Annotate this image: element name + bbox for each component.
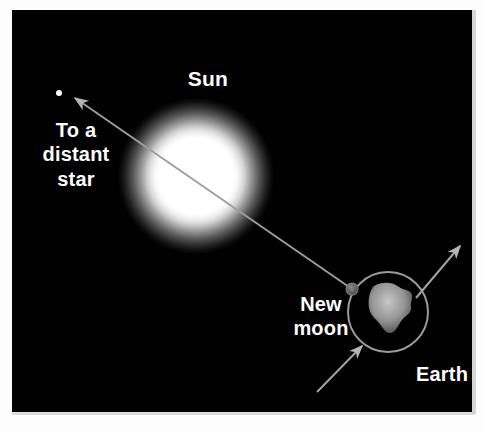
sky-panel: Sun To a distant star New moon Earth xyxy=(12,10,472,412)
label-earth: Earth xyxy=(404,362,472,386)
new-moon-diagram: Sun To a distant star New moon Earth xyxy=(0,0,486,432)
earth-orbit-arrow-upper-right xyxy=(416,246,460,298)
distant-star-point xyxy=(56,90,62,96)
label-new-moon: New moon xyxy=(274,292,368,341)
page-edge-bottom xyxy=(12,412,474,415)
earth-landmass xyxy=(369,283,412,333)
page-edge-right xyxy=(472,10,476,414)
label-distant-star: To a distant star xyxy=(24,118,128,191)
earth-orbit-arrow-lower-left xyxy=(317,346,362,392)
sun-body xyxy=(158,138,234,214)
label-sun: Sun xyxy=(167,66,249,92)
